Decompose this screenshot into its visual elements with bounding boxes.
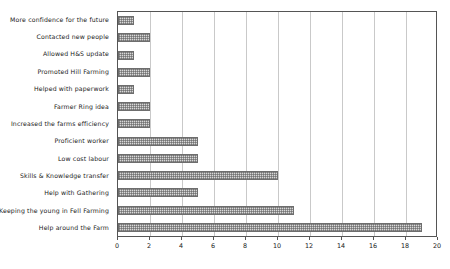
bar <box>118 171 278 180</box>
axis-tick <box>405 237 406 240</box>
category-label: Help around the Farm <box>39 224 113 232</box>
axis-tick-label: 10 <box>273 242 281 250</box>
axis-tick-label: 0 <box>115 242 119 250</box>
axis-tick-label: 2 <box>147 242 151 250</box>
value-axis: 02468101214161820 <box>117 237 437 259</box>
axis-tick <box>149 237 150 240</box>
axis-tick <box>373 237 374 240</box>
bar <box>118 51 134 60</box>
category-label: Skills & Knowledge transfer <box>20 172 113 180</box>
axis-tick <box>277 237 278 240</box>
bar-row <box>118 68 436 77</box>
bar-series <box>118 12 436 236</box>
bar-row <box>118 16 436 25</box>
category-label: Contacted new people <box>36 33 113 41</box>
axis-tick-label: 14 <box>337 242 345 250</box>
bar <box>118 137 198 146</box>
axis-tick-label: 18 <box>401 242 409 250</box>
category-label: Low cost labour <box>58 155 113 163</box>
axis-tick-label: 16 <box>369 242 377 250</box>
axis-tick-label: 4 <box>179 242 183 250</box>
axis-tick-label: 6 <box>211 242 215 250</box>
bar <box>118 206 294 215</box>
bar <box>118 68 150 77</box>
category-label: Allowed H&S update <box>43 50 113 58</box>
bar <box>118 188 198 197</box>
bar <box>118 102 150 111</box>
category-label: Helped with paperwork <box>34 85 113 93</box>
axis-tick-label: 8 <box>243 242 247 250</box>
bar-row <box>118 33 436 42</box>
category-label: Farmer Ring idea <box>54 103 113 111</box>
bar <box>118 119 150 128</box>
plot-area <box>117 11 437 237</box>
bar-row <box>118 137 436 146</box>
bar-row <box>118 171 436 180</box>
bar-row <box>118 154 436 163</box>
category-label: Keeping the young in Fell Farming <box>0 207 113 215</box>
axis-tick <box>341 237 342 240</box>
category-label: Help with Gathering <box>44 189 113 197</box>
axis-tick-label: 12 <box>305 242 313 250</box>
category-label: Increased the farms efficiency <box>11 120 113 128</box>
horizontal-bar-chart: More confidence for the futureContacted … <box>0 0 450 269</box>
category-label: Proficient worker <box>54 137 113 145</box>
axis-tick <box>117 237 118 240</box>
bar-row <box>118 51 436 60</box>
bar-row <box>118 119 436 128</box>
bar <box>118 154 198 163</box>
category-axis-labels: More confidence for the futureContacted … <box>0 11 113 237</box>
axis-tick <box>181 237 182 240</box>
category-label: More confidence for the future <box>10 16 113 24</box>
category-label: Promoted Hill Farming <box>38 68 114 76</box>
axis-tick <box>309 237 310 240</box>
axis-tick <box>437 237 438 240</box>
bar-row <box>118 85 436 94</box>
bar-row <box>118 206 436 215</box>
bar <box>118 33 150 42</box>
bar <box>118 223 422 232</box>
axis-tick <box>213 237 214 240</box>
axis-tick-label: 20 <box>433 242 441 250</box>
bar-row <box>118 188 436 197</box>
bar-row <box>118 223 436 232</box>
bar <box>118 16 134 25</box>
bar-row <box>118 102 436 111</box>
bar <box>118 85 134 94</box>
axis-tick <box>245 237 246 240</box>
